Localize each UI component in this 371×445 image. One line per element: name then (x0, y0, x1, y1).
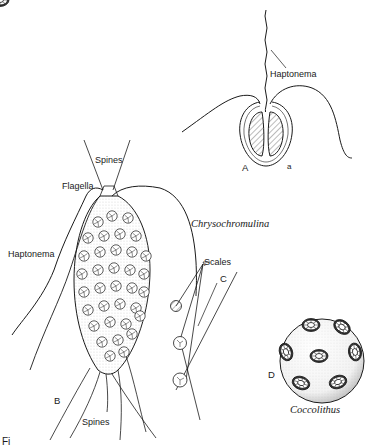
label-scales: Scales (204, 258, 231, 267)
label-haptonema-b: Haptonema (8, 250, 55, 259)
panel-a-cell (182, 10, 352, 166)
haptonema-a (265, 10, 267, 112)
flagellum-a-right (270, 86, 352, 158)
panel-c-scales (171, 262, 238, 420)
genus-coccolithus: Coccolithus (290, 405, 340, 416)
panel-letter-c: C (220, 274, 227, 284)
label-flagella: Flagella (62, 182, 94, 191)
panel-letter-a: A (242, 163, 248, 173)
label-spines-top: Spines (95, 156, 123, 165)
panel-letter-b: B (54, 396, 60, 406)
figure-caption-fragment: Fi (2, 437, 10, 445)
label-haptonema-a: Haptonema (270, 70, 317, 79)
genus-chrysochromulina: Chrysochromulina (191, 219, 269, 230)
panel-letter-d: D (268, 370, 275, 380)
panel-sublabel-a: a (287, 163, 291, 171)
label-spines-bottom: Spines (82, 418, 110, 427)
figure-illustration (0, 0, 371, 445)
